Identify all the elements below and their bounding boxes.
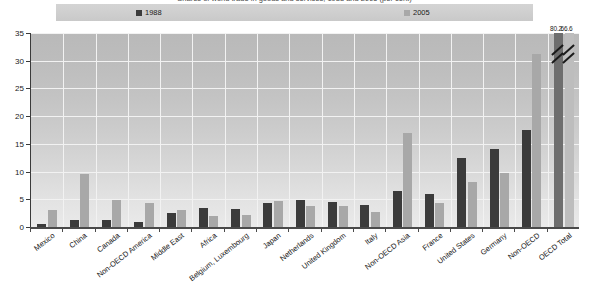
x-tick-mark	[353, 229, 354, 232]
gridline-vertical	[419, 33, 420, 227]
gridline-horizontal	[31, 116, 579, 117]
chart-title: Shares of world trade in goods and servi…	[56, 0, 533, 3]
plot-area	[30, 33, 579, 227]
gridline-vertical	[548, 33, 549, 227]
bar-1988-china	[70, 220, 79, 227]
x-tick-mark	[127, 229, 128, 232]
x-tick-mark	[547, 229, 548, 232]
x-tick-mark	[482, 229, 483, 232]
bar-2005-non-oecd-asia	[403, 133, 412, 227]
bar-1988-belgium-luxembourg	[231, 209, 240, 227]
x-tick-mark	[191, 229, 192, 232]
bar-2005-netherlands	[306, 206, 315, 227]
bar-1988-africa	[199, 208, 208, 227]
x-category-label: OECD Total	[537, 231, 574, 262]
y-tick-label: 5	[20, 195, 24, 204]
x-axis-line	[30, 227, 579, 229]
gridline-vertical	[96, 33, 97, 227]
x-category-label: Middle East	[149, 231, 185, 262]
bar-1988-germany	[490, 149, 499, 227]
x-tick-mark	[288, 229, 289, 232]
chart-legend: 1988 2005	[56, 4, 533, 21]
gridline-vertical	[322, 33, 323, 227]
x-category-label: Italy	[363, 231, 379, 247]
x-category-label: Africa	[198, 231, 219, 250]
bar-chart: Shares of world trade in goods and servi…	[0, 0, 589, 301]
x-tick-mark	[159, 229, 160, 232]
x-tick-mark	[321, 229, 322, 232]
x-tick-mark	[62, 229, 63, 232]
gridline-vertical	[354, 33, 355, 227]
gridline-horizontal	[31, 33, 579, 34]
legend-item-1988: 1988	[136, 8, 162, 17]
x-tick-mark	[418, 229, 419, 232]
legend-item-2005: 2005	[404, 8, 430, 17]
bar-2005-france	[435, 203, 444, 227]
legend-label-2005: 2005	[413, 8, 430, 17]
y-tick-label: 35	[15, 29, 24, 38]
bar-2005-italy	[371, 212, 380, 227]
x-tick-mark	[385, 229, 386, 232]
bar-2005-africa	[209, 216, 218, 227]
y-tick-label: 20	[15, 112, 24, 121]
bar-2005-non-oecd	[532, 54, 541, 227]
bar-2005-china	[80, 174, 89, 227]
gridline-vertical	[257, 33, 258, 227]
legend-swatch-1988	[136, 10, 142, 16]
gridline-vertical	[451, 33, 452, 227]
y-tick-label: 30	[15, 56, 24, 65]
gridline-vertical	[192, 33, 193, 227]
bar-2005-canada	[112, 200, 121, 227]
bar-2005-middle-east	[177, 210, 186, 227]
x-tick-mark	[95, 229, 96, 232]
bar-1988-france	[425, 194, 434, 227]
bar-1988-united-kingdom	[328, 202, 337, 227]
gridline-vertical	[63, 33, 64, 227]
gridline-vertical	[386, 33, 387, 227]
x-category-label: China	[68, 231, 89, 250]
gridline-vertical	[289, 33, 290, 227]
x-axis-category-labels: MexicoChinaCanadaNon-OECD AmericaMiddle …	[30, 231, 579, 301]
x-tick-mark	[514, 229, 515, 232]
bar-2005-united-kingdom	[339, 206, 348, 227]
bar-1988-italy	[360, 205, 369, 227]
bar-2005-united-states	[468, 182, 477, 227]
bar-1988-japan	[263, 203, 272, 227]
legend-swatch-2005	[404, 10, 410, 16]
gridline-vertical	[515, 33, 516, 227]
y-tick-label: 10	[15, 167, 24, 176]
bar-2005-germany	[500, 173, 509, 227]
legend-label-1988: 1988	[145, 8, 162, 17]
bar-2005-belgium-luxembourg	[242, 215, 251, 227]
y-tick-label: 15	[15, 139, 24, 148]
bar-1988-non-oecd-asia	[393, 191, 402, 227]
gridline-vertical	[128, 33, 129, 227]
x-category-label: Canada	[95, 231, 121, 254]
bar-2005-oecd-total	[565, 33, 574, 227]
y-tick-label: 0	[20, 223, 24, 232]
bar-2005-japan	[274, 201, 283, 227]
x-category-label: Belgium, Luxembourg	[187, 231, 250, 283]
gridline-vertical	[483, 33, 484, 227]
x-category-label: Mexico	[32, 231, 56, 253]
x-tick-mark	[256, 229, 257, 232]
y-axis: 05101520253035	[0, 33, 30, 228]
bar-1988-canada	[102, 220, 111, 227]
bar-1988-united-states	[457, 158, 466, 227]
y-tick-label: 25	[15, 84, 24, 93]
x-category-label: Japan	[261, 231, 283, 251]
gridline-horizontal	[31, 61, 579, 62]
gridline-vertical	[160, 33, 161, 227]
gridline-vertical	[225, 33, 226, 227]
x-category-label: Non-OECD America	[95, 231, 153, 279]
bar-1988-non-oecd	[522, 130, 531, 227]
x-tick-mark	[30, 229, 31, 232]
bar-2005-mexico	[48, 210, 57, 227]
bar-1988-netherlands	[296, 200, 305, 227]
x-category-label: Germany	[479, 231, 509, 257]
gridline-horizontal	[31, 144, 579, 145]
bar-2005-non-oecd-america	[145, 203, 154, 227]
bar-value-annotation: 66.6	[561, 25, 573, 32]
bar-1988-middle-east	[167, 213, 176, 227]
x-tick-mark	[450, 229, 451, 232]
